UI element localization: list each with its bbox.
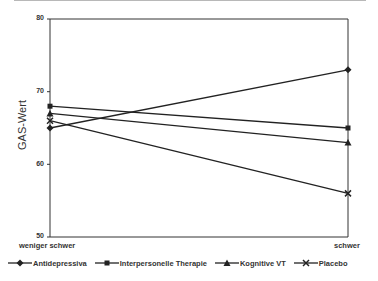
series-layer <box>47 66 352 196</box>
y-tick-70: 70 <box>30 87 44 94</box>
legend-label: Placebo <box>319 259 348 268</box>
x-marker-icon <box>294 258 318 268</box>
line-chart <box>0 0 378 281</box>
square-marker-icon <box>48 104 53 109</box>
square-marker-icon <box>346 126 351 131</box>
diamond-marker-icon <box>8 258 32 268</box>
legend-label: Interpersonelle Therapie <box>120 259 207 268</box>
x-tick-weniger-schwer: weniger schwer <box>19 241 75 250</box>
y-axis-label: GAS-Wert <box>16 95 28 155</box>
legend-item-kognitive-vt: Kognitive VT <box>215 258 286 268</box>
y-tick-60: 60 <box>30 160 44 167</box>
legend-label: Antidepressiva <box>33 259 87 268</box>
diamond-marker-icon <box>345 66 352 73</box>
square-marker-icon <box>95 258 119 268</box>
legend: Antidepressiva Interpersonelle Therapie … <box>8 256 356 270</box>
legend-item-placebo: Placebo <box>294 258 348 268</box>
legend-item-interpersonelle-therapie: Interpersonelle Therapie <box>95 258 207 268</box>
diamond-marker-icon <box>47 125 54 132</box>
series-kognitive-vt <box>47 110 352 146</box>
x-tick-schwer: schwer <box>334 241 360 250</box>
series-antidepressiva <box>47 66 352 131</box>
series-placebo <box>47 118 351 197</box>
y-tick-50: 50 <box>30 232 44 239</box>
y-tick-80: 80 <box>30 14 44 21</box>
legend-item-antidepressiva: Antidepressiva <box>8 258 87 268</box>
triangle-marker-icon <box>215 258 239 268</box>
legend-label: Kognitive VT <box>240 259 286 268</box>
